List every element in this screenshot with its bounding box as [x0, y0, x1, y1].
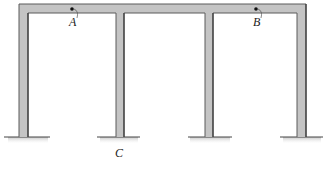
point-a-dot [70, 7, 74, 11]
ground-supports [4, 137, 323, 144]
point-b-dot [254, 7, 258, 11]
ground-hatch-3 [190, 137, 230, 144]
point-b-label: B [253, 15, 261, 29]
ground-hatch-2 [100, 137, 138, 144]
structural-frame-diagram: A B C [0, 0, 323, 171]
support-c-label: C [115, 146, 124, 160]
frame-edges [19, 4, 306, 137]
point-a-label: A [68, 15, 77, 29]
frame-members [19, 4, 306, 137]
ground-hatch-4 [283, 137, 321, 144]
ground-hatch-1 [8, 137, 48, 144]
